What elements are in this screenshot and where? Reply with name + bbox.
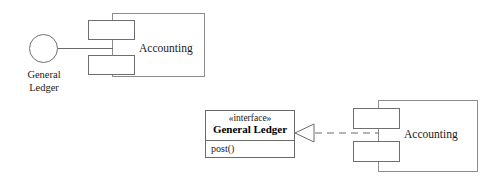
interface-stereotype: «interface» — [210, 113, 290, 123]
hollow-triangle-arrowhead-icon — [295, 124, 314, 142]
interface-stem-line — [57, 48, 113, 49]
provided-interface-label: General Ledger — [8, 68, 80, 94]
component-tab-upper-left — [88, 20, 135, 40]
uml-diagram-canvas: General Ledger Accounting «interface» Ge… — [0, 0, 492, 183]
provided-interface-label-line2: Ledger — [29, 82, 59, 93]
component-tab-lower-left — [88, 55, 135, 75]
component-name-accounting-left: Accounting — [139, 42, 193, 54]
interface-name: General Ledger — [210, 123, 290, 136]
interface-classifier-box: «interface» General Ledger post() — [205, 110, 295, 158]
interface-operation-post: post() — [211, 143, 294, 155]
component-tab-upper-right — [353, 108, 400, 129]
component-name-accounting-right: Accounting — [404, 128, 458, 140]
component-tab-lower-right — [353, 141, 400, 162]
provided-interface-label-line1: General — [27, 69, 60, 80]
lollipop-circle-icon — [29, 34, 58, 63]
interface-header-compartment: «interface» General Ledger — [206, 111, 294, 141]
interface-operations-compartment: post() — [206, 141, 294, 157]
